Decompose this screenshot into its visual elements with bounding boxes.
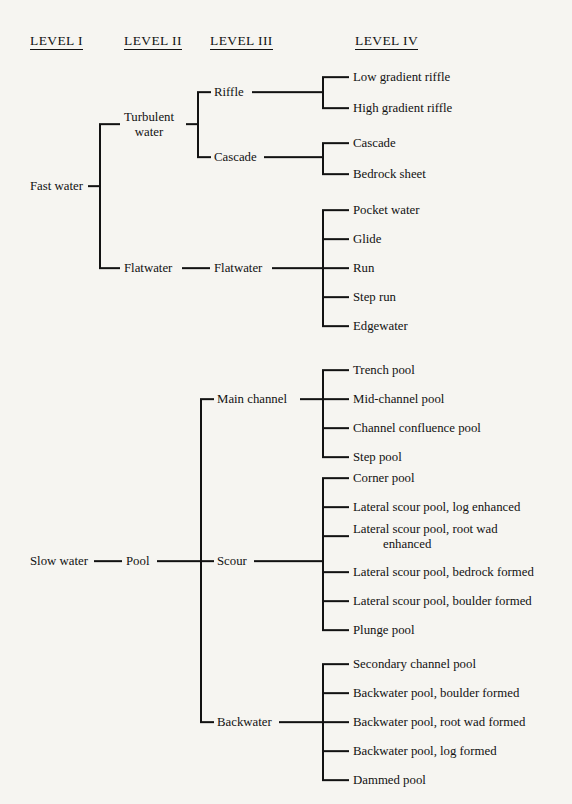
connector-main-channel-leaf-4	[322, 456, 349, 458]
leaf-lateral-scour-log-enhanced: Lateral scour pool, log enhanced	[353, 500, 520, 515]
connector-riffle-out	[252, 91, 323, 93]
leaf-plunge-pool: Plunge pool	[353, 623, 415, 638]
leaf-lateral-scour-boulder-formed: Lateral scour pool, boulder formed	[353, 594, 532, 609]
leaf-bedrock-sheet: Bedrock sheet	[353, 167, 426, 182]
connector-backwater-leaf-4	[322, 750, 349, 752]
connector-main-channel-bracket	[322, 370, 324, 457]
node-scour: Scour	[217, 554, 247, 568]
leaf-trench-pool: Trench pool	[353, 363, 415, 378]
connector-slow-water-to-pool	[94, 560, 122, 562]
connector-cascade-bracket	[322, 143, 324, 175]
node-flatwater-level3: Flatwater	[214, 261, 262, 275]
connector-flatwater-out	[272, 267, 323, 269]
column-header-level-3: LEVEL III	[210, 33, 273, 50]
node-cascade: Cascade	[214, 150, 257, 164]
leaf-mid-channel-pool: Mid-channel pool	[353, 392, 444, 407]
connector-scour-leaf-1	[322, 477, 349, 479]
connector-cascade-out	[264, 156, 323, 158]
connector-scour-out	[254, 560, 323, 562]
connector-flatwater-leaf-5	[322, 325, 349, 327]
connector-main-channel-leaf-2	[322, 398, 349, 400]
leaf-step-pool: Step pool	[353, 450, 402, 465]
connector-turbulent-spine	[197, 92, 199, 158]
connector-main-channel-leaf-1	[322, 369, 349, 371]
connector-flatwater-leaf-4	[322, 296, 349, 298]
connector-flatwater-leaf-2	[322, 238, 349, 240]
leaf-channel-confluence-pool: Channel confluence pool	[353, 421, 481, 436]
node-slow-water: Slow water	[30, 554, 88, 568]
leaf-cascade: Cascade	[353, 136, 396, 151]
leaf-backwater-pool-boulder: Backwater pool, boulder formed	[353, 686, 519, 701]
node-backwater: Backwater	[217, 715, 272, 729]
node-fast-water: Fast water	[30, 179, 83, 193]
leaf-glide: Glide	[353, 232, 381, 247]
connector-to-backwater	[200, 721, 214, 723]
column-header-level-1: LEVEL I	[30, 33, 83, 50]
connector-riffle-leaf-2	[322, 107, 349, 109]
connector-to-main-channel	[200, 398, 214, 400]
connector-scour-leaf-5	[322, 600, 349, 602]
column-header-level-2: LEVEL II	[124, 33, 182, 50]
column-header-level-4: LEVEL IV	[355, 33, 418, 50]
leaf-corner-pool: Corner pool	[353, 471, 415, 486]
connector-flatwater-l2-to-l3	[182, 267, 210, 269]
connector-backwater-leaf-3	[322, 721, 349, 723]
connector-scour-leaf-3	[322, 535, 349, 537]
connector-scour-leaf-4	[322, 571, 349, 573]
connector-to-scour	[200, 560, 214, 562]
connector-scour-leaf-6	[322, 629, 349, 631]
leaf-run: Run	[353, 261, 374, 276]
leaf-backwater-pool-rootwad: Backwater pool, root wad formed	[353, 715, 525, 730]
connector-backwater-leaf-1	[322, 663, 349, 665]
node-riffle: Riffle	[214, 85, 244, 99]
leaf-secondary-channel-pool: Secondary channel pool	[353, 657, 476, 672]
connector-cascade-leaf-1	[322, 142, 349, 144]
node-main-channel: Main channel	[217, 392, 287, 406]
connector-main-channel-leaf-3	[322, 427, 349, 429]
connector-to-riffle	[197, 91, 211, 93]
connector-backwater-out	[279, 721, 323, 723]
connector-flatwater-leaf-1	[322, 209, 349, 211]
connector-backwater-leaf-5	[322, 779, 349, 781]
connector-riffle-bracket	[322, 77, 324, 109]
connector-to-cascade	[197, 156, 211, 158]
leaf-edgewater: Edgewater	[353, 319, 408, 334]
connector-main-channel-out	[300, 398, 323, 400]
node-turbulent-water: Turbulent water	[124, 110, 174, 139]
connector-scour-leaf-2	[322, 506, 349, 508]
connector-to-flatwater-l2	[99, 267, 120, 269]
leaf-low-gradient-riffle: Low gradient riffle	[353, 70, 450, 85]
connector-to-turbulent	[99, 123, 120, 125]
leaf-high-gradient-riffle: High gradient riffle	[353, 101, 452, 116]
connector-flatwater-leaf-3	[322, 267, 349, 269]
connector-cascade-leaf-2	[322, 173, 349, 175]
leaf-backwater-pool-log: Backwater pool, log formed	[353, 744, 497, 759]
leaf-lateral-scour-rootwad-enhanced: Lateral scour pool, root wad enhanced	[353, 522, 498, 551]
connector-riffle-leaf-1	[322, 76, 349, 78]
connector-fast-water-spine	[99, 124, 101, 269]
leaf-step-run: Step run	[353, 290, 396, 305]
leaf-pocket-water: Pocket water	[353, 203, 419, 218]
leaf-lateral-scour-bedrock-formed: Lateral scour pool, bedrock formed	[353, 565, 534, 580]
node-pool: Pool	[126, 554, 149, 568]
connector-scour-bracket	[322, 478, 324, 630]
connector-backwater-leaf-2	[322, 692, 349, 694]
connector-pool-out	[157, 560, 201, 562]
diagram-canvas: LEVEL I LEVEL II LEVEL III LEVEL IV Fast…	[0, 0, 572, 804]
leaf-dammed-pool: Dammed pool	[353, 773, 426, 788]
node-flatwater-level2: Flatwater	[124, 261, 172, 275]
